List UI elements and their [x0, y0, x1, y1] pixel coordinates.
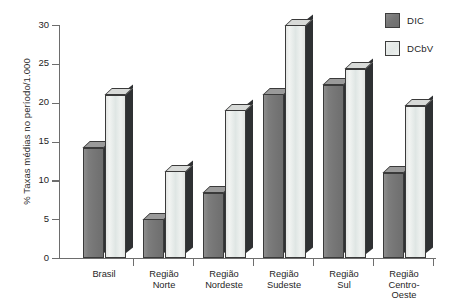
bar-front-face [405, 106, 426, 258]
legend-item-dcbv: DCbV [385, 41, 433, 56]
bar-dcbv-2 [225, 110, 246, 258]
y-axis-line [59, 25, 60, 259]
y-axis-tick-label: 0 [44, 252, 49, 263]
y-axis-tick-label: 10 [38, 174, 49, 185]
bar-dcbv-4 [345, 69, 366, 259]
x-axis-label: Região Sudeste [256, 269, 312, 290]
y-axis-tick: 25 [52, 64, 59, 65]
bar-front-face [285, 25, 306, 258]
x-axis-tick [133, 259, 134, 266]
bar-dic-5 [383, 173, 404, 258]
bar-dic-0 [83, 148, 104, 258]
y-axis-tick: 5 [52, 219, 59, 220]
legend-swatch-dic-icon [385, 13, 400, 28]
bar-front-face [225, 110, 246, 258]
bar-dcbv-5 [405, 106, 426, 258]
legend-item-dic: DIC [385, 13, 433, 28]
y-axis-tick-label: 20 [38, 96, 49, 107]
y-axis-tick: 30 [52, 25, 59, 26]
y-axis-title: % Taxas médias no período/1.000 [21, 27, 32, 237]
legend-label-dic: DIC [407, 15, 424, 26]
plot-area: 051015202530 BrasilRegião NorteRegião No… [59, 20, 436, 259]
y-axis-tick-label: 5 [44, 213, 49, 224]
x-axis-tick [313, 259, 314, 266]
bar-side-face [186, 161, 193, 253]
bar-dcbv-0 [105, 95, 126, 258]
bar-side-face [126, 84, 133, 253]
bar-dic-3 [263, 94, 284, 258]
x-axis-label: Região Norte [136, 269, 192, 290]
bar-front-face [83, 148, 104, 258]
bar-dic-1 [143, 219, 164, 258]
y-axis-tick: 15 [52, 142, 59, 143]
y-axis-tick-label: 25 [38, 57, 49, 68]
x-axis-tick [253, 259, 254, 266]
bar-front-face [105, 95, 126, 258]
bar-front-face [263, 94, 284, 258]
bar-side-face [246, 100, 253, 253]
bar-front-face [165, 171, 186, 258]
bar-dic-2 [203, 193, 224, 258]
x-axis-label: Região Nordeste [196, 269, 252, 290]
bar-front-face [203, 193, 224, 258]
x-axis-label: Brasil [76, 269, 132, 280]
bar-side-face [426, 95, 433, 253]
legend-swatch-dcbv-icon [385, 41, 400, 56]
bar-front-face [143, 219, 164, 258]
legend-label-dcbv: DCbV [407, 43, 433, 54]
x-axis-tick [193, 259, 194, 266]
bar-dcbv-3 [285, 25, 306, 258]
x-axis-tick [373, 259, 374, 266]
chart-legend: DIC DCbV [385, 13, 433, 69]
y-axis-tick: 0 [52, 258, 59, 259]
y-axis-tick-label: 15 [38, 135, 49, 146]
y-axis-tick: 10 [52, 180, 59, 181]
bar-side-face [306, 15, 313, 253]
bar-dic-4 [323, 85, 344, 258]
bar-front-face [345, 69, 366, 259]
bar-front-face [383, 173, 404, 258]
y-axis-tick: 20 [52, 103, 59, 104]
x-axis-tick [433, 259, 434, 266]
bar-front-face [323, 85, 344, 258]
bar-side-face [366, 58, 373, 253]
bar-chart: % Taxas médias no período/1.000 05101520… [0, 0, 453, 307]
x-axis-label: Região Centro- Oeste [376, 269, 432, 301]
x-axis-label: Região Sul [316, 269, 372, 290]
y-axis-tick-label: 30 [38, 19, 49, 30]
x-axis-line [59, 258, 436, 259]
bar-dcbv-1 [165, 171, 186, 258]
